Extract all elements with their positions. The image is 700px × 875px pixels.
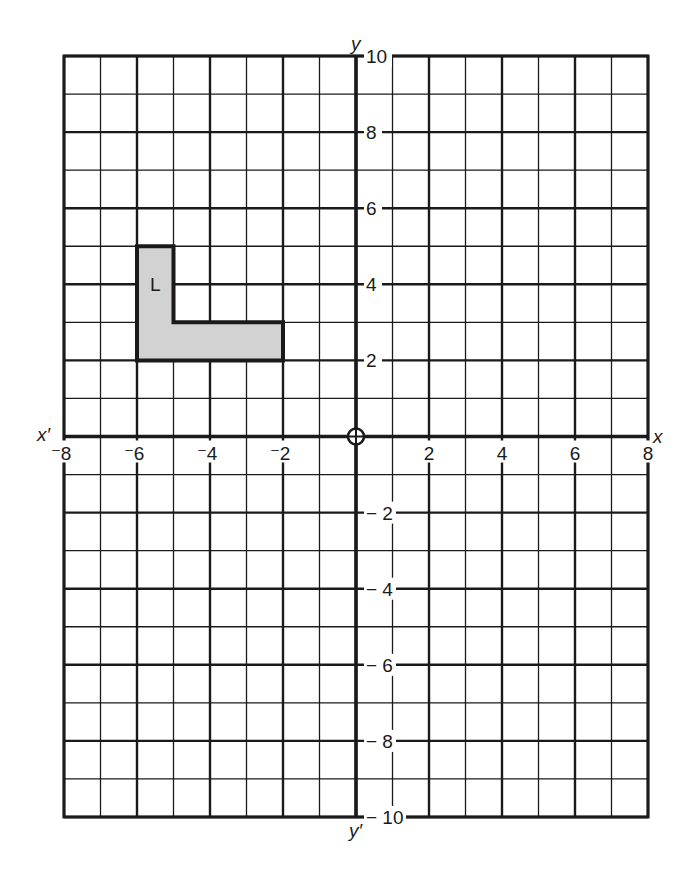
shape-label: L: [150, 274, 161, 295]
y-tick-label: − 10: [366, 807, 404, 828]
x-tick-label: ⁻2: [270, 443, 291, 464]
x-tick-label: 2: [424, 443, 435, 464]
y-tick-label: − 8: [366, 731, 393, 752]
y-tick-label: 6: [366, 198, 377, 219]
y-tick-label: 4: [366, 274, 377, 295]
y-prime-axis-label: y′: [347, 820, 364, 841]
y-tick-label: − 2: [366, 503, 393, 524]
y-tick-label: − 6: [366, 655, 393, 676]
y-axis-label: y: [349, 33, 362, 54]
x-axis-label: x: [652, 426, 664, 447]
x-tick-label: ⁻8: [51, 443, 72, 464]
x-tick-label: 4: [497, 443, 508, 464]
coordinate-plane: L ⁻8⁻6⁻4⁻22468108642− 2− 4− 6− 8− 10 x x…: [0, 0, 700, 875]
y-tick-label: − 4: [366, 579, 393, 600]
y-tick-label: 10: [366, 46, 387, 67]
x-tick-label: 6: [570, 443, 581, 464]
x-tick-label: ⁻4: [197, 443, 218, 464]
x-tick-label: ⁻6: [124, 443, 145, 464]
origin-marker-icon: [348, 429, 364, 445]
y-tick-label: 2: [366, 350, 377, 371]
x-prime-axis-label: x′: [36, 424, 52, 445]
x-tick-label: 8: [643, 443, 654, 464]
y-tick-label: 8: [366, 122, 377, 143]
